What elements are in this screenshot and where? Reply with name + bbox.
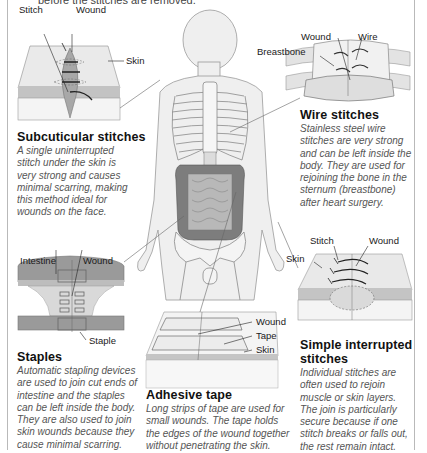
- subcuticular-description: A single uninterrupted stitch under the …: [17, 145, 128, 219]
- label-wound: Wound: [83, 255, 113, 266]
- interrupted-stitches-description: Individual stitches are often used to re…: [300, 367, 408, 453]
- label-wire: Wire: [358, 31, 378, 42]
- subcuticular-illustration: [18, 34, 160, 120]
- label-skin: Skin: [286, 253, 304, 264]
- adhesive-tape-description: Long strips of tape are used for small w…: [146, 403, 289, 452]
- interrupted-stitches-title: Simple interrupted stitches: [300, 338, 412, 366]
- label-skin: Skin: [256, 344, 274, 355]
- label-wound: Wound: [301, 31, 331, 42]
- label-stitch: Stitch: [310, 235, 334, 246]
- label-wound: Wound: [369, 235, 399, 246]
- sternum-icon: [203, 82, 217, 154]
- subcuticular-title: Subcuticular stitches: [17, 130, 146, 144]
- label-breastbone: Breastbone: [257, 46, 306, 57]
- label-skin: Skin: [126, 55, 144, 66]
- staples-title: Staples: [17, 350, 62, 364]
- adhesive-tape-title: Adhesive tape: [146, 388, 232, 402]
- intestine-icon: [176, 165, 245, 240]
- label-wound: Wound: [76, 4, 106, 15]
- wire-stitches-title: Wire stitches: [300, 108, 379, 122]
- label-wound: Wound: [256, 316, 286, 327]
- label-stitch: Stitch: [19, 4, 43, 15]
- wire-stitches-description: Stainless steel wire stitches are very s…: [300, 123, 411, 209]
- label-staple: Staple: [89, 335, 116, 346]
- label-intestine: Intestine: [20, 255, 56, 266]
- staples-description: Automatic stapling devices are used to j…: [17, 365, 137, 451]
- label-tape: Tape: [256, 330, 277, 341]
